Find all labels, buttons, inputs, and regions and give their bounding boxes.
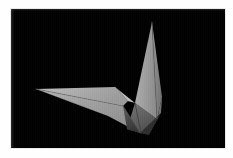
origami-model-svg xyxy=(11,9,225,148)
canvas-background xyxy=(11,9,225,148)
render-canvas[interactable] xyxy=(11,9,225,148)
render-viewer xyxy=(0,0,233,158)
